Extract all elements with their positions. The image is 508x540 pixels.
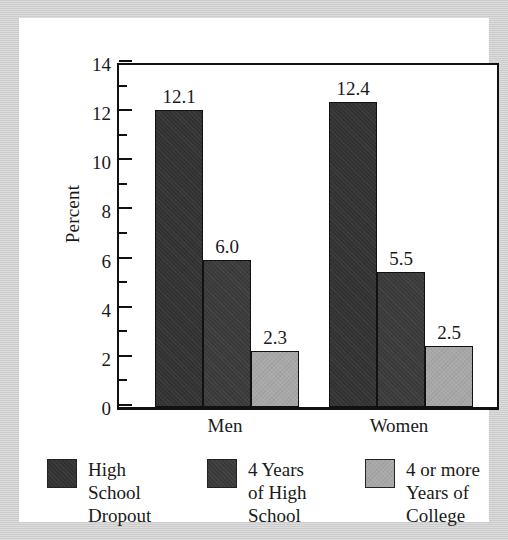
bar-value-label: 2.5 — [413, 323, 485, 342]
y-axis-tick-label: 12 — [63, 104, 111, 123]
bar-value-label: 5.5 — [365, 249, 437, 268]
y-axis-tick-label: 0 — [63, 399, 111, 418]
y-axis-minor-tick — [119, 330, 127, 332]
legend-label: 4 Years of High School — [248, 458, 307, 527]
y-axis-minor-tick — [119, 134, 127, 136]
legend-label: High School Dropout — [88, 458, 151, 527]
x-axis-group-label: Women — [329, 416, 469, 435]
legend-color-swatch — [365, 459, 395, 488]
y-axis-minor-tick — [119, 379, 127, 381]
y-axis-major-tick — [119, 109, 132, 111]
bar — [155, 110, 203, 407]
y-axis-minor-tick — [119, 232, 127, 234]
legend-item: 4 Years of High School — [207, 458, 307, 527]
y-axis-minor-tick — [119, 183, 127, 185]
y-axis-major-tick — [119, 207, 132, 209]
y-axis-minor-tick — [119, 85, 127, 87]
plot-area: 12.16.02.312.45.52.5 — [117, 63, 499, 410]
bar — [251, 351, 299, 408]
bar-value-label: 12.1 — [143, 87, 215, 106]
y-axis-tick-label: 10 — [63, 153, 111, 172]
y-axis-major-tick — [119, 60, 132, 62]
y-axis-tick-label: 14 — [63, 55, 111, 74]
chart-legend: High School Dropout4 Years of High Schoo… — [47, 458, 499, 532]
y-axis-tick-labels: 14121086420 — [53, 63, 111, 410]
y-axis-major-tick — [119, 355, 132, 357]
y-axis-tick-label: 4 — [63, 301, 111, 320]
y-axis-major-tick — [119, 404, 132, 406]
y-axis-tick-label: 2 — [63, 350, 111, 369]
bar-value-label: 6.0 — [191, 237, 263, 256]
x-axis-group-label: Men — [155, 416, 295, 435]
y-axis-major-tick — [119, 158, 132, 160]
legend-item: 4 or more Years of College — [365, 458, 480, 527]
figure-background: Percent 14121086420 12.16.02.312.45.52.5… — [0, 0, 508, 540]
bar-value-label: 2.3 — [239, 328, 311, 347]
y-axis-tick-label: 8 — [63, 202, 111, 221]
y-axis-minor-tick — [119, 281, 127, 283]
y-axis-tick-label: 6 — [63, 252, 111, 271]
legend-label: 4 or more Years of College — [406, 458, 480, 527]
bar-value-label: 12.4 — [317, 79, 389, 98]
legend-color-swatch — [207, 459, 237, 488]
chart-card: Percent 14121086420 12.16.02.312.45.52.5… — [19, 18, 489, 522]
legend-item: High School Dropout — [47, 458, 151, 527]
bar — [425, 346, 473, 407]
legend-color-swatch — [47, 459, 77, 488]
y-axis-major-tick — [119, 257, 132, 259]
y-axis-major-tick — [119, 306, 132, 308]
